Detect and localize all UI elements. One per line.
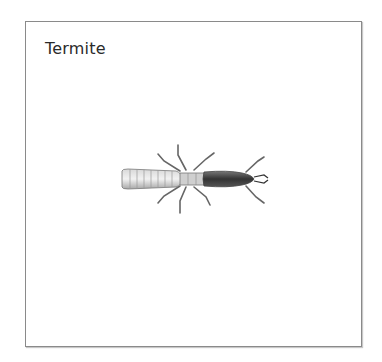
card-title: Termite <box>45 39 106 58</box>
termite-image <box>118 141 274 217</box>
